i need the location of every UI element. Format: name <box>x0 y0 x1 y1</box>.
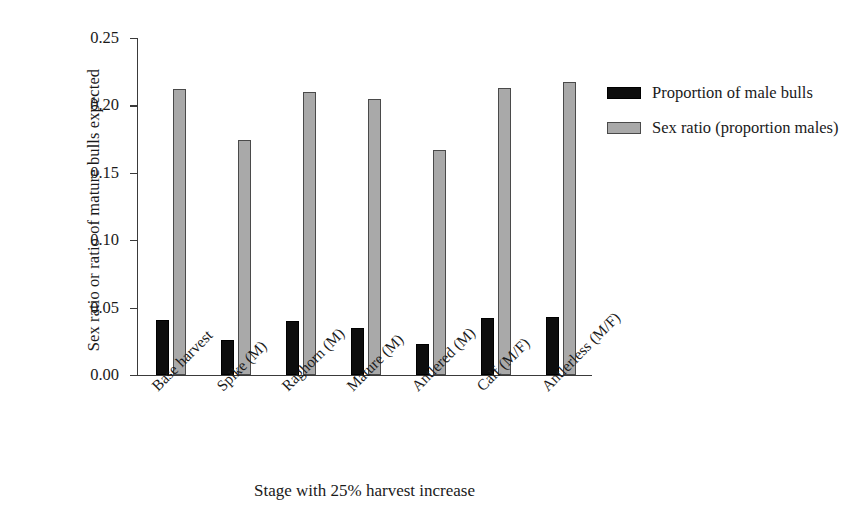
black-swatch <box>607 87 641 99</box>
bar-sex-ratio <box>173 89 186 375</box>
legend-entry: Sex ratio (proportion males) <box>607 117 847 139</box>
y-axis-tick: 0.10 <box>130 240 137 241</box>
y-axis-tick: 0.00 <box>130 375 137 376</box>
bar-sex-ratio <box>498 88 511 375</box>
legend-label: Sex ratio (proportion males) <box>652 117 839 139</box>
y-axis-tick-label: 0.00 <box>90 365 119 385</box>
y-axis-tick: 0.15 <box>130 173 137 174</box>
y-axis-tick-label: 0.20 <box>90 95 119 115</box>
bar-sex-ratio <box>368 99 381 375</box>
y-axis-tick-label: 0.05 <box>90 297 119 317</box>
bar-sex-ratio <box>433 150 446 375</box>
chart-legend: Proportion of male bulls Sex ratio (prop… <box>607 82 847 152</box>
y-axis-title: Sex ratio or ratio of mature bulls expec… <box>84 20 104 400</box>
y-axis-tick: 0.20 <box>130 105 137 106</box>
y-axis-line <box>137 38 138 375</box>
y-axis-tick-label: 0.25 <box>90 28 119 48</box>
x-axis-title: Stage with 25% harvest increase <box>137 481 592 501</box>
y-axis-tick: 0.25 <box>130 38 137 39</box>
plot-area: 0.000.050.100.150.200.25 Base harvestSpi… <box>137 38 592 375</box>
bar-chart-figure: Sex ratio or ratio of mature bulls expec… <box>0 0 854 521</box>
legend-label: Proportion of male bulls <box>652 82 813 104</box>
legend-entry: Proportion of male bulls <box>607 82 847 104</box>
y-axis-tick: 0.05 <box>130 308 137 309</box>
bar-sex-ratio <box>303 92 316 375</box>
bar-sex-ratio <box>563 82 576 375</box>
y-axis-tick-label: 0.15 <box>90 162 119 182</box>
bar-sex-ratio <box>238 140 251 375</box>
y-axis-tick-label: 0.10 <box>90 230 119 250</box>
gray-swatch <box>607 122 641 134</box>
